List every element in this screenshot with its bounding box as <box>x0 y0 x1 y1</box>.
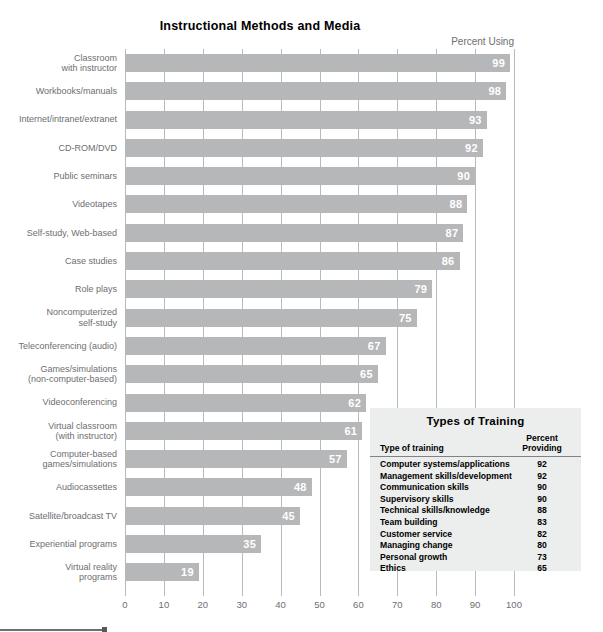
bar-row: 86 <box>125 247 514 275</box>
bar-row: 90 <box>125 162 514 190</box>
x-axis-tick <box>436 587 437 596</box>
chart-page: Instructional Methods and Media Percent … <box>0 0 603 632</box>
table-cell-training-type: Personal growth <box>380 552 513 564</box>
category-label: Self-study, Web-based <box>0 219 117 247</box>
table-cell-training-type: Managing change <box>380 540 513 552</box>
bar-row: 75 <box>125 304 514 332</box>
table-row: Ethics65 <box>370 563 581 575</box>
table-row: Managing change80 <box>370 540 581 552</box>
bar-row: 87 <box>125 219 514 247</box>
inset-header-percent-line2: Providing <box>513 443 571 453</box>
category-label: Satellite/broadcast TV <box>0 502 117 530</box>
table-row: Communication skills90 <box>370 482 581 494</box>
table-cell-percent-providing: 92 <box>513 459 571 471</box>
bar-row: 99 <box>125 49 514 77</box>
x-axis-tick-label: 70 <box>392 599 403 610</box>
category-label: Experiential programs <box>0 530 117 558</box>
bar-value-label: 79 <box>414 283 427 295</box>
table-cell-percent-providing: 90 <box>513 482 571 494</box>
x-axis-tick-label: 60 <box>353 599 364 610</box>
category-label: Virtual realityprograms <box>0 558 117 586</box>
x-axis-tick-label: 20 <box>198 599 209 610</box>
bar-row: 79 <box>125 275 514 303</box>
bar: 92 <box>125 139 483 157</box>
bar: 45 <box>125 507 300 525</box>
category-label: Role plays <box>0 275 117 303</box>
x-axis-tick-label: 90 <box>470 599 481 610</box>
table-cell-training-type: Supervisory skills <box>380 494 513 506</box>
table-row: Customer service82 <box>370 529 581 541</box>
bar: 87 <box>125 224 463 242</box>
bar: 57 <box>125 450 347 468</box>
category-label: Case studies <box>0 247 117 275</box>
table-cell-percent-providing: 73 <box>513 552 571 564</box>
bar: 98 <box>125 82 506 100</box>
category-label: Noncomputerizedself-study <box>0 304 117 332</box>
page-title: Instructional Methods and Media <box>0 19 520 33</box>
bar-value-label: 92 <box>465 142 478 154</box>
x-axis-tick-label: 100 <box>506 599 522 610</box>
bar: 19 <box>125 563 199 581</box>
bar-row: 67 <box>125 332 514 360</box>
table-cell-percent-providing: 80 <box>513 540 571 552</box>
inset-table-body: Computer systems/applications92Managemen… <box>370 459 581 575</box>
table-cell-percent-providing: 90 <box>513 494 571 506</box>
category-label: Public seminars <box>0 162 117 190</box>
bar-value-label: 67 <box>368 340 381 352</box>
bar: 88 <box>125 195 467 213</box>
category-label: Videotapes <box>0 190 117 218</box>
bar: 99 <box>125 54 510 72</box>
x-axis: 0102030405060708090100 <box>125 587 514 617</box>
table-row: Technical skills/knowledge88 <box>370 505 581 517</box>
table-cell-percent-providing: 83 <box>513 517 571 529</box>
x-axis-tick <box>281 587 282 596</box>
table-row: Team building83 <box>370 517 581 529</box>
table-cell-percent-providing: 82 <box>513 529 571 541</box>
bar-value-label: 45 <box>282 510 295 522</box>
bar-row: 88 <box>125 190 514 218</box>
bar: 86 <box>125 252 460 270</box>
bar: 62 <box>125 394 366 412</box>
x-axis-tick <box>320 587 321 596</box>
footnote-divider <box>0 629 104 631</box>
bar: 35 <box>125 535 261 553</box>
x-axis-tick-label: 40 <box>275 599 286 610</box>
inset-header-divider <box>370 456 581 457</box>
table-row: Computer systems/applications92 <box>370 459 581 471</box>
x-axis-tick-label: 30 <box>236 599 247 610</box>
category-label: Teleconferencing (audio) <box>0 332 117 360</box>
x-axis-tick-label: 50 <box>314 599 325 610</box>
x-axis-tick <box>242 587 243 596</box>
bar-value-label: 48 <box>294 481 307 493</box>
category-label: Audiocassettes <box>0 473 117 501</box>
inset-header-percent: Percent Providing <box>513 433 571 453</box>
x-axis-tick <box>125 587 126 596</box>
bar-row: 93 <box>125 106 514 134</box>
table-cell-training-type: Management skills/development <box>380 471 513 483</box>
table-cell-percent-providing: 92 <box>513 471 571 483</box>
value-axis-label: Percent Using <box>451 36 514 47</box>
bar: 48 <box>125 478 312 496</box>
bar: 79 <box>125 280 432 298</box>
table-cell-training-type: Computer systems/applications <box>380 459 513 471</box>
category-label: CD-ROM/DVD <box>0 134 117 162</box>
bar-value-label: 88 <box>449 198 462 210</box>
x-axis-tick <box>397 587 398 596</box>
category-label: Internet/intranet/extranet <box>0 106 117 134</box>
category-label: Classroomwith instructor <box>0 49 117 77</box>
x-axis-tick <box>514 587 515 596</box>
bar: 65 <box>125 365 378 383</box>
x-axis-tick <box>358 587 359 596</box>
category-label: Games/simulations(non-computer-based) <box>0 360 117 388</box>
category-label: Computer-basedgames/simulations <box>0 445 117 473</box>
category-label: Videoconferencing <box>0 389 117 417</box>
bar-row: 65 <box>125 360 514 388</box>
bar-value-label: 61 <box>344 425 357 437</box>
table-cell-percent-providing: 65 <box>513 563 571 575</box>
x-axis-tick-label: 0 <box>122 599 127 610</box>
bar-value-label: 86 <box>442 255 455 267</box>
category-label: Virtual classroom(with instructor) <box>0 417 117 445</box>
bar: 90 <box>125 167 475 185</box>
bar-value-label: 99 <box>492 57 505 69</box>
bar-value-label: 98 <box>488 85 501 97</box>
